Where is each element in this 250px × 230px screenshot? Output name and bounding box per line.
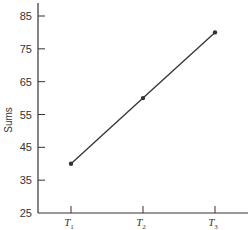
y-tick-label: 35 [20,174,32,186]
data-series [69,30,217,166]
y-tick-label: 45 [20,141,32,153]
x-tick-label: T2 [136,216,146,230]
y-tick-label: 55 [20,109,32,121]
x-tick-label: T3 [208,216,218,230]
y-axis: 25354555657585 [20,3,45,219]
y-tick-label: 75 [20,43,32,55]
y-tick-label: 25 [20,207,32,219]
x-tick-label: T1 [64,216,74,230]
data-point [213,30,217,34]
y-tick-label: 65 [20,76,32,88]
y-tick-label: 85 [20,10,32,22]
data-point [141,96,145,100]
data-point [69,162,73,166]
line-chart: 25354555657585 T1T2T3 Sums [0,0,250,230]
y-axis-title: Sums [3,107,14,133]
x-axis: T1T2T3 [38,206,248,230]
